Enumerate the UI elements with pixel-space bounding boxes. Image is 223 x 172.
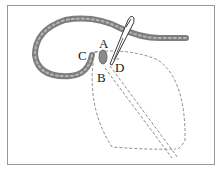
- stitch-loop: [99, 50, 107, 64]
- label-d: D: [115, 60, 124, 75]
- label-a: A: [99, 36, 109, 51]
- label-b: B: [97, 70, 106, 85]
- thread: [35, 19, 186, 77]
- leaf-outline: [92, 51, 185, 158]
- label-c: C: [78, 48, 87, 63]
- stitch-diagram: A B C D: [0, 0, 223, 172]
